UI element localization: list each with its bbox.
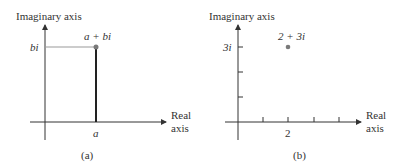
panel-b-y-tick-label: 3i <box>223 42 232 53</box>
panel-b-x-axis-label-line2: axis <box>366 123 384 134</box>
panel-a-x-tick-label: a <box>93 128 99 139</box>
panel-a-x-axis-label-line2: axis <box>171 123 189 134</box>
panel-b-y-ticks <box>238 47 243 97</box>
panel-a-x-axis-label-line1: Real <box>171 110 191 121</box>
panel-a-caption: (a) <box>81 150 93 161</box>
panel-a-y-axis-label: Imaginary axis <box>16 11 82 22</box>
panel-b-x-axis-label-line1: Real <box>366 110 386 121</box>
panel-b-caption: (b) <box>293 150 306 161</box>
panel-b-plot <box>225 25 361 140</box>
panel-a-point-label: a + bi <box>84 31 111 42</box>
panel-a-y-tick-label: bi <box>30 42 39 53</box>
panel-b-y-axis-label: Imaginary axis <box>209 11 275 22</box>
complex-plane-diagrams <box>0 0 396 168</box>
panel-b-point-label: 2 + 3i <box>278 31 305 42</box>
panel-b-point <box>286 45 291 50</box>
panel-b-x-ticks <box>263 117 339 122</box>
panel-a-plot <box>30 25 166 140</box>
panel-a-point <box>94 45 99 50</box>
panel-b-x-tick-label: 2 <box>285 128 291 139</box>
